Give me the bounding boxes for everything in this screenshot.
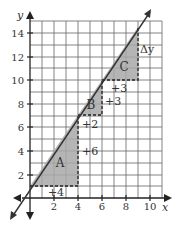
slope-diagram: 2 4 6 8 10 12 14 2 4 6 8 10 x y A B C +4…: [0, 0, 180, 231]
x-axis-left-arrow-icon: [13, 194, 21, 202]
y-tick-label: 2: [18, 170, 24, 181]
y-tick-label: 14: [11, 28, 24, 39]
y-tick-label: 4: [18, 146, 24, 157]
triangle-b-rise-label: +3: [105, 95, 121, 108]
y-axis-arrow-icon: [26, 11, 34, 19]
x-tick-label: 6: [99, 201, 105, 212]
triangle-b-label: B: [87, 98, 96, 112]
y-axis-down-arrow-icon: [26, 212, 34, 220]
y-tick-label: 8: [18, 99, 24, 110]
triangle-c-run-label: +3: [111, 82, 127, 95]
y-tick-label: 12: [11, 52, 24, 63]
triangle-a-run-label: +4: [48, 186, 64, 199]
triangle-c-label: C: [119, 60, 128, 74]
x-axis-label: x: [162, 201, 169, 214]
y-tick-label: 6: [18, 122, 24, 133]
x-tick-label: 4: [75, 201, 81, 212]
x-tick-label: 2: [51, 201, 57, 212]
y-axis-label: y: [16, 9, 24, 22]
triangle-a-rise-label: +6: [82, 145, 98, 158]
triangle-b-run-label: +2: [82, 118, 98, 131]
x-tick-label: 10: [144, 201, 157, 212]
y-tick-label: 10: [11, 75, 24, 86]
triangle-a-label: A: [55, 156, 65, 170]
triangle-c-rise-label: Δy: [140, 43, 155, 56]
x-tick-label: 8: [123, 201, 129, 212]
